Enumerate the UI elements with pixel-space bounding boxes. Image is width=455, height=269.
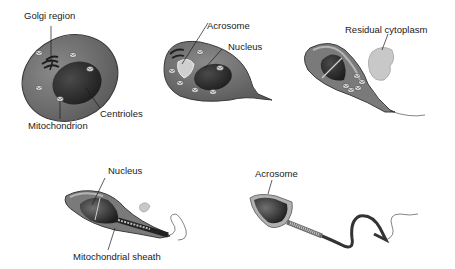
spermiogenesis-diagram: Golgi region Centrioles Mitochondrion Ac…: [0, 0, 455, 269]
label-centrioles: Centrioles: [100, 109, 143, 119]
label-mitochondrion: Mitochondrion: [28, 121, 88, 131]
label-mitochondrial-sheath: Mitochondrial sheath: [73, 252, 161, 262]
label-acrosome-stage-5: Acrosome: [255, 169, 298, 179]
label-nucleus-stage-2: Nucleus: [228, 42, 262, 52]
stage-3-cell: [304, 34, 425, 116]
label-golgi-region: Golgi region: [24, 11, 75, 21]
stage-5-cell: [250, 180, 418, 247]
stage-4-cell: [65, 178, 186, 250]
stage-2-cell: [164, 23, 272, 101]
label-nucleus-stage-4: Nucleus: [108, 166, 142, 176]
label-acrosome-stage-2: Acrosome: [207, 21, 250, 31]
label-residual-cytoplasm: Residual cytoplasm: [345, 25, 427, 35]
